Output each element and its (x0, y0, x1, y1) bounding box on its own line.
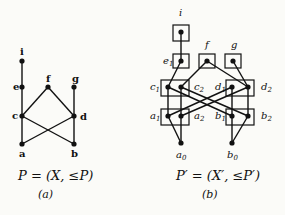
svg-text:i: i (179, 7, 182, 18)
svg-text:a0: a0 (176, 149, 187, 162)
svg-text:g: g (231, 39, 237, 50)
svg-text:c2: c2 (194, 81, 205, 94)
sublabel-a: (a) (38, 188, 53, 201)
svg-text:b: b (71, 148, 78, 159)
svg-text:g: g (72, 73, 79, 84)
svg-text:f: f (46, 73, 51, 84)
svg-text:e1: e1 (163, 55, 173, 68)
svg-text:d2: d2 (261, 81, 272, 94)
svg-text:d: d (80, 111, 87, 122)
svg-text:a: a (19, 148, 26, 159)
caption-a: P = (X, ≤P) (17, 168, 93, 183)
svg-text:c: c (12, 110, 18, 121)
svg-text:d1: d1 (215, 81, 226, 94)
svg-text:f: f (204, 39, 211, 50)
svg-text:b2: b2 (261, 110, 272, 123)
svg-text:a1: a1 (150, 110, 160, 123)
svg-text:i: i (20, 46, 24, 57)
svg-text:e: e (13, 81, 19, 92)
diagram-a-nodes (19, 58, 76, 146)
svg-text:a2: a2 (194, 110, 205, 123)
svg-text:b0: b0 (227, 149, 238, 162)
caption-b: P′ = (X′, ≤P′) (175, 168, 260, 183)
svg-text:c1: c1 (150, 81, 160, 94)
sublabel-b: (b) (202, 188, 218, 201)
poset-figure: i e f g c d a b P = (X, ≤P) (a) (0, 0, 285, 215)
